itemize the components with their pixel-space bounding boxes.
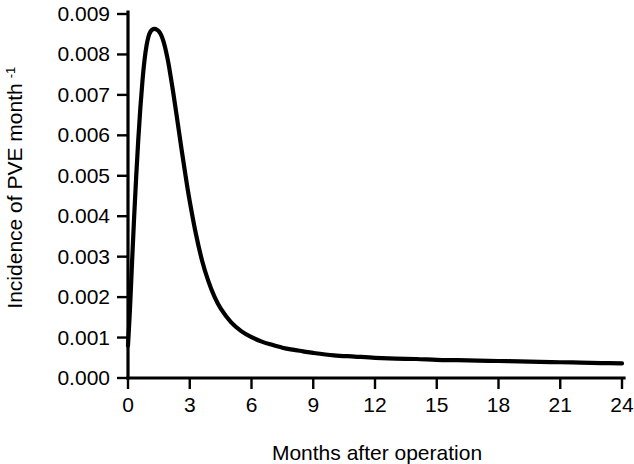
- y-tick-label: 0.009: [57, 2, 110, 25]
- x-tick-label: 12: [363, 393, 386, 416]
- chart-figure: 0.0000.0010.0020.0030.0040.0050.0060.007…: [0, 0, 634, 464]
- x-tick-label: 6: [246, 393, 258, 416]
- y-tick-label: 0.006: [57, 123, 110, 146]
- y-tick-label: 0.002: [57, 285, 110, 308]
- y-tick-label: 0.003: [57, 245, 110, 268]
- y-tick-label: 0.005: [57, 164, 110, 187]
- y-axis-title-superscript: -1: [3, 67, 18, 79]
- y-tick-label: 0.008: [57, 42, 110, 65]
- y-tick-label: 0.004: [57, 204, 110, 227]
- y-tick-label: 0.000: [57, 366, 110, 389]
- x-tick-label: 21: [549, 393, 572, 416]
- y-tick-label: 0.007: [57, 83, 110, 106]
- x-axis-title: Months after operation: [272, 441, 482, 464]
- y-axis-title: Incidence of PVE month: [3, 83, 26, 308]
- x-tick-label: 24: [610, 393, 634, 416]
- x-tick-label: 15: [425, 393, 448, 416]
- x-tick-label: 3: [184, 393, 196, 416]
- incidence-line-chart: 0.0000.0010.0020.0030.0040.0050.0060.007…: [0, 0, 634, 464]
- x-tick-label: 9: [307, 393, 319, 416]
- y-tick-label: 0.001: [57, 326, 110, 349]
- y-axis-title-group: Incidence of PVE month -1: [3, 67, 26, 309]
- x-tick-label: 0: [122, 393, 134, 416]
- x-tick-label: 18: [487, 393, 510, 416]
